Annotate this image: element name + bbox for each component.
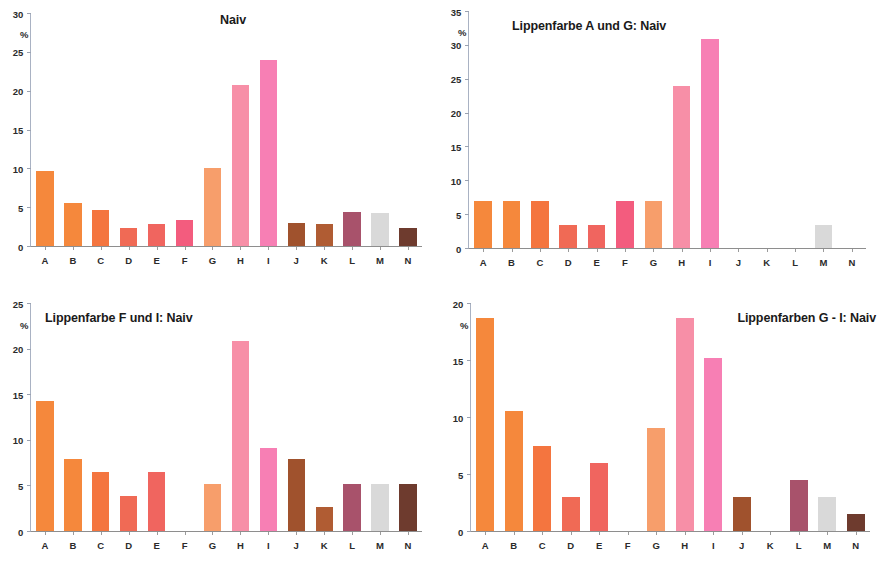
bar-slot	[668, 12, 696, 248]
x-axis-tick-mark	[838, 249, 866, 252]
bar-slot	[724, 12, 752, 248]
x-axis-tick-mark	[282, 247, 310, 250]
bar-M[interactable]	[815, 225, 833, 248]
bar-K[interactable]	[316, 507, 333, 531]
bar-D[interactable]	[562, 497, 580, 531]
bar-K[interactable]	[316, 224, 333, 246]
bar-M[interactable]	[371, 213, 388, 246]
bar-F[interactable]	[176, 220, 193, 246]
bar-B[interactable]	[505, 411, 523, 531]
bar-F[interactable]	[616, 201, 634, 248]
bar-H[interactable]	[676, 318, 694, 531]
bar-L[interactable]	[343, 212, 360, 246]
bar-L[interactable]	[343, 484, 360, 531]
x-axis-tick-label-L: L	[338, 256, 366, 266]
bar-H[interactable]	[232, 85, 249, 246]
bar-G[interactable]	[645, 201, 663, 248]
bar-H[interactable]	[673, 86, 691, 249]
bar-A[interactable]	[476, 318, 494, 531]
x-axis-tick-mark	[115, 532, 143, 535]
bar-series	[31, 14, 422, 246]
bar-N[interactable]	[399, 228, 416, 246]
x-axis-tick-mark	[171, 532, 199, 535]
x-axis-tick-label-K: K	[310, 541, 338, 551]
bar-slot	[87, 304, 115, 531]
x-axis-tick-mark	[554, 249, 582, 252]
x-axis-tick-label-N: N	[394, 256, 422, 266]
bar-M[interactable]	[818, 497, 836, 531]
bar-I[interactable]	[260, 60, 277, 246]
bar-B[interactable]	[64, 203, 81, 246]
bar-J[interactable]	[733, 497, 751, 531]
y-axis-tick-label: 30	[451, 41, 468, 51]
bar-E[interactable]	[148, 224, 165, 246]
bar-slot	[199, 304, 227, 531]
x-axis-tick-mark	[724, 249, 752, 252]
x-axis-tick-mark	[813, 532, 842, 535]
bar-slot	[254, 14, 282, 246]
bar-H[interactable]	[232, 341, 249, 531]
bar-A[interactable]	[474, 201, 492, 248]
bar-G[interactable]	[204, 168, 221, 246]
bar-N[interactable]	[399, 484, 416, 531]
bar-B[interactable]	[503, 201, 521, 248]
bar-slot	[753, 12, 781, 248]
bar-slot	[59, 14, 87, 246]
y-axis-tick-label: 30	[13, 9, 30, 19]
bar-N[interactable]	[847, 514, 865, 531]
y-axis-tick-label: 35	[451, 7, 468, 17]
x-axis-tick-label-A: A	[469, 258, 497, 268]
bar-J[interactable]	[288, 223, 305, 246]
bar-slot	[699, 304, 728, 531]
x-axis-tick-label-F: F	[171, 256, 199, 266]
x-axis-tick-label-F: F	[171, 541, 199, 551]
x-axis-tick-mark	[728, 532, 757, 535]
x-axis-tick-mark	[394, 532, 422, 535]
x-axis-tick-mark	[753, 249, 781, 252]
x-axis-tick-label-I: I	[254, 256, 282, 266]
x-axis-tick-label-F: F	[611, 258, 639, 268]
bar-I[interactable]	[704, 358, 722, 531]
bar-slot	[756, 304, 785, 531]
bar-E[interactable]	[590, 463, 608, 531]
bar-C[interactable]	[531, 201, 549, 248]
bar-D[interactable]	[120, 228, 137, 246]
y-axis-tick-label: 10	[13, 165, 30, 175]
y-axis-tick-label: 15	[453, 356, 470, 366]
bar-L[interactable]	[790, 480, 808, 531]
x-axis-tick-mark	[671, 532, 700, 535]
y-axis-tick-label: 15	[451, 143, 468, 153]
bar-I[interactable]	[260, 448, 277, 531]
bar-A[interactable]	[36, 171, 53, 246]
bar-G[interactable]	[204, 484, 221, 531]
x-axis-tick-label-G: G	[199, 256, 227, 266]
bar-E[interactable]	[588, 225, 606, 248]
x-axis-tick-label-D: D	[115, 541, 143, 551]
bar-A[interactable]	[36, 401, 53, 531]
bar-I[interactable]	[701, 39, 719, 248]
bar-C[interactable]	[533, 446, 551, 531]
bar-B[interactable]	[64, 459, 81, 531]
bar-M[interactable]	[371, 484, 388, 531]
x-axis-tick-mark	[668, 249, 696, 252]
x-axis-tick-label-K: K	[756, 541, 785, 551]
x-axis-tick-label-K: K	[753, 258, 781, 268]
x-axis-tick-mark	[469, 249, 497, 252]
x-axis-tick-mark	[143, 532, 171, 535]
bar-E[interactable]	[148, 472, 165, 531]
bar-C[interactable]	[92, 472, 109, 531]
y-axis-tick-label: 5	[18, 482, 30, 492]
x-axis-tick-mark	[526, 249, 554, 252]
x-axis-tick-labels: ABCDEFGHIJKLMN	[31, 541, 422, 551]
bar-G[interactable]	[647, 428, 665, 531]
bar-J[interactable]	[288, 459, 305, 531]
bar-C[interactable]	[92, 210, 109, 246]
bar-D[interactable]	[120, 496, 137, 531]
x-axis-tick-mark	[199, 532, 227, 535]
y-axis-unit-label: %	[20, 30, 28, 40]
panel-top-left: Naiv%051015202530ABCDEFGHIJKLMN	[0, 0, 440, 290]
x-axis-tick-mark	[338, 247, 366, 250]
bar-D[interactable]	[559, 225, 577, 248]
x-axis-tick-mark	[338, 532, 366, 535]
bar-slot	[611, 12, 639, 248]
